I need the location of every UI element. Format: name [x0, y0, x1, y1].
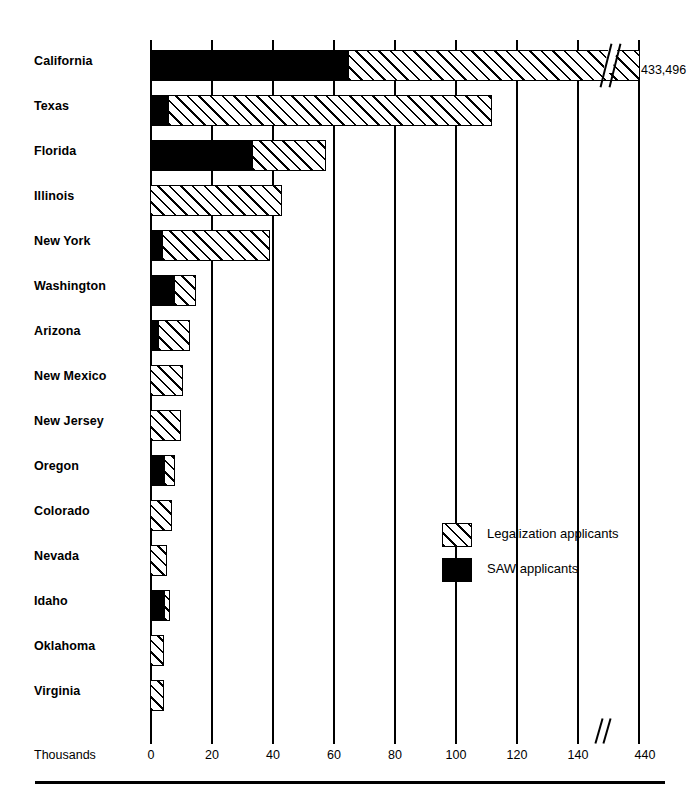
category-label-virginia: Virginia [34, 684, 146, 698]
category-label-colorado: Colorado [34, 504, 146, 518]
tick-label-20: 20 [187, 748, 237, 762]
tick-20 [211, 730, 213, 744]
gridline-440 [638, 40, 640, 730]
legend-swatch-saw-icon [442, 558, 472, 582]
value-label-california: 433,496 [641, 63, 686, 77]
gridline-100 [455, 40, 457, 730]
category-label-florida: Florida [34, 144, 146, 158]
gridline-80 [394, 40, 396, 730]
x-axis-ticks [150, 730, 650, 744]
tick-label-0: 0 [126, 748, 176, 762]
legend-label-legalization: Legalization applicants [487, 526, 619, 541]
tick-label-60: 60 [309, 748, 359, 762]
tick-label-40: 40 [248, 748, 298, 762]
tick-100 [455, 730, 457, 744]
tick-label-120: 120 [492, 748, 542, 762]
category-label-texas: Texas [34, 99, 146, 113]
bar-segment-legalization [150, 410, 181, 441]
bar-chart: California Texas Florida Illinois New Yo… [0, 0, 700, 810]
bar-segment-legalization [150, 680, 164, 711]
tick-40 [272, 730, 274, 744]
bar-segment-legalization [150, 185, 282, 216]
legend-label-saw: SAW applicants [487, 561, 578, 576]
bar-segment-legalization [158, 320, 190, 351]
tick-label-440: 440 [620, 748, 670, 762]
x-axis-title: Thousands [34, 748, 96, 762]
category-label-washington: Washington [34, 279, 146, 293]
tick-120 [516, 730, 518, 744]
category-label-arizona: Arizona [34, 324, 146, 338]
bar-segment-saw [150, 140, 254, 171]
bar-segment-legalization [252, 140, 326, 171]
bottom-rule [35, 781, 665, 784]
plot-area [150, 40, 650, 730]
bar-segment-legalization [150, 635, 164, 666]
legend-swatch-legalization-icon [442, 523, 472, 547]
category-label-oklahoma: Oklahoma [34, 639, 146, 653]
tick-440 [638, 730, 640, 744]
bar-segment-legalization [164, 455, 175, 486]
bar-segment-legalization [174, 275, 196, 306]
bar-segment-saw [150, 95, 170, 126]
bar-segment-legalization [150, 500, 172, 531]
gridline-60 [333, 40, 335, 730]
tick-0 [150, 730, 152, 744]
category-label-new-york: New York [34, 234, 146, 248]
category-label-new-mexico: New Mexico [34, 369, 146, 383]
bar-segment-legalization [150, 545, 167, 576]
gridline-120 [516, 40, 518, 730]
bar-segment-legalization [164, 590, 170, 621]
tick-label-100: 100 [431, 748, 481, 762]
bar-segment-legalization [162, 230, 270, 261]
axis-break-icon [594, 718, 618, 744]
bar-segment-saw [150, 50, 350, 81]
bar-segment-legalization [150, 365, 183, 396]
category-label-idaho: Idaho [34, 594, 146, 608]
category-label-illinois: Illinois [34, 189, 146, 203]
bar-segment-legalization [348, 50, 640, 81]
tick-60 [333, 730, 335, 744]
gridline-140 [577, 40, 579, 730]
tick-80 [394, 730, 396, 744]
category-label-nevada: Nevada [34, 549, 146, 563]
category-label-california: California [34, 54, 146, 68]
category-label-oregon: Oregon [34, 459, 146, 473]
tick-label-140: 140 [553, 748, 603, 762]
category-label-new-jersey: New Jersey [34, 414, 146, 428]
bar-segment-legalization [168, 95, 492, 126]
bar-segment-saw [150, 275, 176, 306]
tick-label-80: 80 [370, 748, 420, 762]
tick-140 [577, 730, 579, 744]
